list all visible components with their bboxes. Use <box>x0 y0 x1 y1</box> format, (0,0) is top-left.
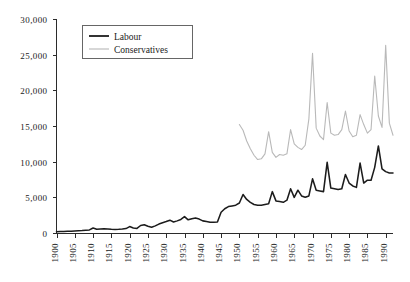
legend: Labour Conservatives <box>83 26 193 59</box>
x-tick-label: 1910 <box>86 243 96 263</box>
series-line-conservatives <box>239 45 393 159</box>
x-tick-label: 1960 <box>269 243 279 263</box>
x-axis-group: 1900190519101915192019251930193519401945… <box>50 233 394 263</box>
y-axis-group: 05,00010,00015,00020,00025,00030,000 <box>20 15 56 239</box>
x-tick-label: 1920 <box>123 243 133 263</box>
x-tick-label: 1950 <box>232 243 242 263</box>
x-tick-label: 1930 <box>159 243 169 263</box>
x-tick-label: 1980 <box>342 243 352 263</box>
series-line-labour <box>57 146 394 232</box>
line-chart: 05,00010,00015,00020,00025,00030,000 190… <box>0 0 410 282</box>
x-tick-label: 1945 <box>214 243 224 263</box>
x-tick-label: 1905 <box>68 243 78 263</box>
chart-container: 05,00010,00015,00020,00025,00030,000 190… <box>0 0 410 282</box>
y-tick-label: 10,000 <box>20 158 47 168</box>
x-tick-label: 1935 <box>178 243 188 263</box>
x-tick-label: 1925 <box>141 243 151 263</box>
y-axis-ticks <box>53 20 57 234</box>
x-tick-label: 1975 <box>324 243 334 263</box>
legend-label-conservatives: Conservatives <box>114 45 168 55</box>
x-tick-label: 1900 <box>50 243 60 263</box>
y-tick-label: 20,000 <box>20 86 47 96</box>
x-tick-label: 1965 <box>287 243 297 263</box>
x-tick-label: 1940 <box>196 243 206 263</box>
y-tick-label: 30,000 <box>20 15 47 25</box>
x-tick-label: 1955 <box>251 243 261 263</box>
legend-label-labour: Labour <box>114 32 142 42</box>
x-tick-label: 1970 <box>306 243 316 263</box>
y-tick-label: 25,000 <box>20 51 47 61</box>
series-group <box>57 45 394 231</box>
y-tick-label: 0 <box>43 229 48 239</box>
x-axis-tick-labels: 1900190519101915192019251930193519401945… <box>50 243 389 263</box>
y-axis-tick-labels: 05,00010,00015,00020,00025,00030,000 <box>20 15 47 239</box>
y-tick-label: 5,000 <box>25 193 47 203</box>
y-tick-label: 15,000 <box>20 122 47 132</box>
x-tick-label: 1990 <box>379 243 389 263</box>
x-tick-label: 1985 <box>360 243 370 263</box>
x-tick-label: 1915 <box>104 243 114 263</box>
